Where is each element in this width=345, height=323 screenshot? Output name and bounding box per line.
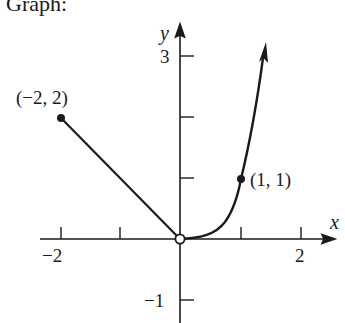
open-point-origin bbox=[175, 234, 184, 243]
tick-label-x-2: 2 bbox=[295, 245, 305, 266]
y-axis bbox=[176, 24, 185, 323]
left-segment bbox=[61, 118, 177, 236]
y-ticks bbox=[180, 56, 194, 300]
tick-label-y-3: 3 bbox=[160, 46, 170, 67]
tick-label-x-neg2: −2 bbox=[42, 245, 62, 266]
closed-point-neg2-2 bbox=[57, 114, 65, 122]
point-label-1-1: (1, 1) bbox=[250, 169, 291, 191]
closed-point-1-1 bbox=[237, 175, 245, 183]
y-axis-arrow-icon bbox=[176, 24, 185, 37]
x-axis-label: x bbox=[329, 211, 339, 233]
point-label-neg2-2: (−2, 2) bbox=[16, 87, 68, 109]
tick-label-y-neg1: −1 bbox=[144, 290, 164, 311]
x-axis-arrow-icon bbox=[322, 235, 335, 244]
cubic-curve bbox=[183, 58, 263, 239]
piecewise-graph: y x 3 −1 −2 2 (−2, 2) (1, 1) bbox=[0, 0, 345, 323]
y-axis-label: y bbox=[158, 22, 169, 45]
